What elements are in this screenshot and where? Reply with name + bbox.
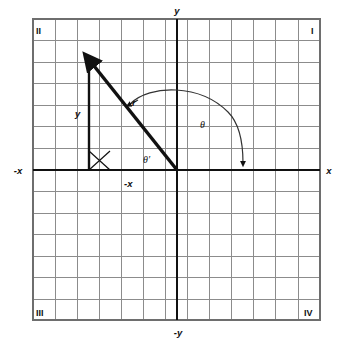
quadrant-label-four: IV [304, 308, 313, 318]
label-leg-negative-x: -x [124, 178, 133, 189]
quadrant-label-three: III [36, 308, 44, 318]
label-theta-prime: θ′ [143, 154, 151, 165]
axis-label-x-negative: -x [14, 165, 23, 176]
figure-canvas: y -y x -x II I III IV r y -x θ θ′ [0, 0, 338, 343]
terminal-ray [93, 64, 178, 170]
axis-label-y-negative: -y [174, 327, 183, 338]
axis-labels: y -y x -x [14, 5, 333, 338]
quadrant-label-two: II [36, 26, 41, 36]
reference-triangle [89, 61, 177, 170]
axis-label-y-positive: y [173, 5, 180, 16]
label-theta: θ [200, 119, 205, 130]
coordinate-plane-figure: y -y x -x II I III IV r y -x θ θ′ [0, 0, 338, 343]
quadrant-label-one: I [311, 26, 314, 36]
axis-label-x-positive: x [325, 165, 332, 176]
triangle-labels: r y -x θ θ′ [74, 97, 205, 189]
label-leg-y: y [74, 108, 81, 119]
